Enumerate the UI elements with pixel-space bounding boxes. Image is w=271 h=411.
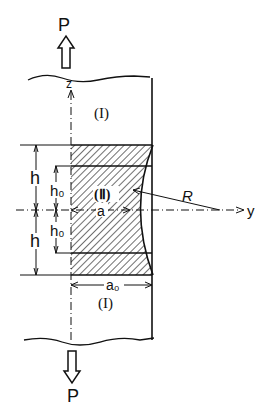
h0-upper-label: h₀	[50, 182, 65, 199]
break-line-bottom	[24, 338, 154, 345]
radius-line	[133, 190, 220, 210]
load-arrow-down-icon	[64, 351, 80, 383]
a0-label: a₀	[106, 277, 120, 293]
h0-lower-label: h₀	[50, 222, 65, 239]
load-label-bottom: P	[67, 386, 79, 406]
load-label-top: P	[58, 15, 70, 35]
h-lower-label: h	[30, 231, 40, 251]
y-axis-label: y	[247, 202, 255, 219]
region-top-label: (I)	[94, 105, 109, 122]
radius-label: R	[182, 187, 193, 204]
specimen-diagram: P z y h h h₀ h₀ (Ⅱ) (I) (I) a R	[0, 0, 271, 411]
break-line-top	[28, 75, 150, 81]
z-axis-label: z	[66, 77, 72, 91]
load-arrow-up-icon	[58, 36, 74, 68]
h-upper-label: h	[30, 168, 40, 188]
a-label: a	[97, 203, 105, 219]
region-bottom-label: (I)	[98, 295, 113, 312]
region-middle-label: (Ⅱ)	[94, 187, 111, 203]
